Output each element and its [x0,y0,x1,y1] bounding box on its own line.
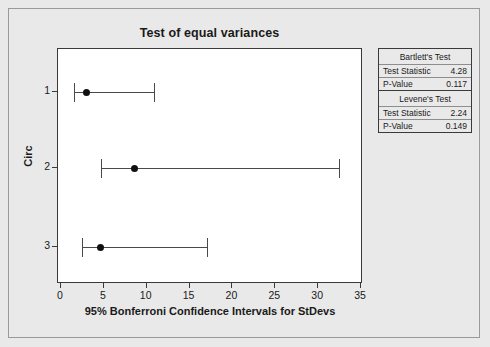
y-axis-title: Circ [22,126,34,186]
x-axis-tick [189,283,190,288]
page-title: Test of equal variances [57,26,362,40]
x-axis-tick-label: 0 [48,289,72,301]
x-axis-tick [146,283,147,288]
stats-block-header: Bartlett's Test [379,49,471,64]
interval-cap-upper [207,238,208,257]
x-axis-tick [103,283,104,288]
stats-row-label: P-Value [383,79,413,89]
stats-row: Test Statistic2.24 [379,106,471,119]
x-axis-title: 95% Bonferroni Confidence Intervals for … [40,305,380,317]
y-axis-tick-label: 3 [34,239,50,251]
stats-row: P-Value0.117 [379,77,471,90]
stats-row-label: P-Value [383,121,413,131]
x-axis-tick-label: 25 [262,289,286,301]
plot-area [57,48,362,283]
y-axis-tick [52,91,57,92]
stats-row: Test Statistic4.28 [379,64,471,77]
stats-row-label: Test Statistic [383,66,431,76]
stats-block-header: Levene's Test [379,91,471,106]
x-axis-tick [231,283,232,288]
x-axis-tick-label: 20 [219,289,243,301]
x-axis-tick [360,283,361,288]
stats-row-label: Test Statistic [383,108,431,118]
stats-block: Bartlett's TestTest Statistic4.28P-Value… [379,49,471,90]
stats-row-value: 0.149 [446,121,467,131]
plot-inner [58,49,361,282]
x-axis-tick [60,283,61,288]
confidence-interval-row [58,49,361,282]
stats-table: Bartlett's TestTest Statistic4.28P-Value… [378,48,472,133]
x-axis-tick [274,283,275,288]
stats-row: P-Value0.149 [379,119,471,132]
x-axis-tick-label: 35 [348,289,372,301]
y-axis-tick [52,246,57,247]
x-axis-tick [317,283,318,288]
y-axis-tick [52,167,57,168]
chart-page: Test of equal variances Circ 95% Bonferr… [0,0,490,347]
y-axis-tick-label: 2 [34,160,50,172]
y-axis-tick-label: 1 [34,84,50,96]
stats-row-value: 4.28 [450,66,467,76]
x-axis-tick-label: 10 [134,289,158,301]
x-axis-tick-label: 30 [305,289,329,301]
stats-block: Levene's TestTest Statistic2.24P-Value0.… [379,90,471,132]
stats-row-value: 2.24 [450,108,467,118]
interval-center-marker [97,244,104,251]
x-axis-tick-label: 5 [91,289,115,301]
stats-row-value: 0.117 [446,79,467,89]
interval-cap-lower [82,238,83,257]
x-axis-tick-label: 15 [177,289,201,301]
